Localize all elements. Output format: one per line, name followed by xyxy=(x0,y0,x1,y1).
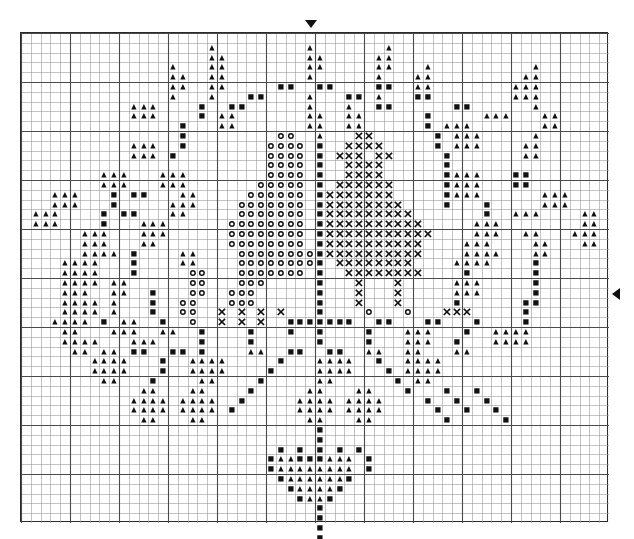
triangle-symbol[interactable] xyxy=(139,337,149,347)
triangle-symbol[interactable] xyxy=(80,249,90,259)
triangle-symbol[interactable] xyxy=(217,82,227,92)
triangle-symbol[interactable] xyxy=(344,121,354,131)
triangle-symbol[interactable] xyxy=(433,356,443,366)
triangle-symbol[interactable] xyxy=(413,347,423,357)
triangle-symbol[interactable] xyxy=(305,43,315,53)
triangle-symbol[interactable] xyxy=(482,229,492,239)
open-circle-symbol[interactable] xyxy=(266,200,276,210)
open-circle-symbol[interactable] xyxy=(295,160,305,170)
triangle-symbol[interactable] xyxy=(452,141,462,151)
cross-symbol[interactable] xyxy=(393,278,403,288)
cross-symbol[interactable] xyxy=(364,190,374,200)
cross-symbol[interactable] xyxy=(413,219,423,229)
triangle-symbol[interactable] xyxy=(511,209,521,219)
cross-symbol[interactable] xyxy=(344,239,354,249)
filled-square-symbol[interactable] xyxy=(374,102,384,112)
triangle-symbol[interactable] xyxy=(521,151,531,161)
cross-symbol[interactable] xyxy=(354,200,364,210)
filled-square-symbol[interactable] xyxy=(315,180,325,190)
open-circle-symbol[interactable] xyxy=(286,209,296,219)
triangle-symbol[interactable] xyxy=(188,190,198,200)
triangle-symbol[interactable] xyxy=(315,405,325,415)
triangle-symbol[interactable] xyxy=(325,474,335,484)
open-circle-symbol[interactable] xyxy=(256,249,266,259)
open-circle-symbol[interactable] xyxy=(188,268,198,278)
cross-symbol[interactable] xyxy=(335,239,345,249)
triangle-symbol[interactable] xyxy=(354,121,364,131)
open-circle-symbol[interactable] xyxy=(276,258,286,268)
open-circle-symbol[interactable] xyxy=(266,190,276,200)
triangle-symbol[interactable] xyxy=(90,229,100,239)
open-circle-symbol[interactable] xyxy=(295,151,305,161)
open-circle-symbol[interactable] xyxy=(188,288,198,298)
filled-square-symbol[interactable] xyxy=(109,190,119,200)
triangle-symbol[interactable] xyxy=(90,356,100,366)
cross-symbol[interactable] xyxy=(364,170,374,180)
filled-square-symbol[interactable] xyxy=(384,317,394,327)
triangle-symbol[interactable] xyxy=(50,190,60,200)
filled-square-symbol[interactable] xyxy=(276,82,286,92)
triangle-symbol[interactable] xyxy=(531,62,541,72)
cross-symbol[interactable] xyxy=(384,219,394,229)
open-circle-symbol[interactable] xyxy=(237,239,247,249)
filled-square-symbol[interactable] xyxy=(129,209,139,219)
open-circle-symbol[interactable] xyxy=(197,288,207,298)
open-circle-symbol[interactable] xyxy=(295,258,305,268)
cross-symbol[interactable] xyxy=(374,190,384,200)
triangle-symbol[interactable] xyxy=(511,92,521,102)
triangle-symbol[interactable] xyxy=(462,347,472,357)
triangle-symbol[interactable] xyxy=(119,317,129,327)
cross-symbol[interactable] xyxy=(384,249,394,259)
filled-square-symbol[interactable] xyxy=(521,298,531,308)
triangle-symbol[interactable] xyxy=(452,131,462,141)
triangle-symbol[interactable] xyxy=(315,386,325,396)
filled-square-symbol[interactable] xyxy=(315,258,325,268)
open-circle-symbol[interactable] xyxy=(286,258,296,268)
triangle-symbol[interactable] xyxy=(344,405,354,415)
triangle-symbol[interactable] xyxy=(560,200,570,210)
filled-square-symbol[interactable] xyxy=(315,445,325,455)
filled-square-symbol[interactable] xyxy=(129,249,139,259)
triangle-symbol[interactable] xyxy=(305,396,315,406)
triangle-symbol[interactable] xyxy=(521,82,531,92)
filled-square-symbol[interactable] xyxy=(364,464,374,474)
open-circle-symbol[interactable] xyxy=(364,307,374,317)
triangle-symbol[interactable] xyxy=(168,72,178,82)
filled-square-symbol[interactable] xyxy=(452,298,462,308)
filled-square-symbol[interactable] xyxy=(325,317,335,327)
triangle-symbol[interactable] xyxy=(315,415,325,425)
triangle-symbol[interactable] xyxy=(148,405,158,415)
triangle-symbol[interactable] xyxy=(60,258,70,268)
triangle-symbol[interactable] xyxy=(188,200,198,210)
open-circle-symbol[interactable] xyxy=(276,190,286,200)
triangle-symbol[interactable] xyxy=(344,111,354,121)
filled-square-symbol[interactable] xyxy=(158,366,168,376)
open-circle-symbol[interactable] xyxy=(246,239,256,249)
triangle-symbol[interactable] xyxy=(354,386,364,396)
triangle-symbol[interactable] xyxy=(70,288,80,298)
triangle-symbol[interactable] xyxy=(462,170,472,180)
open-circle-symbol[interactable] xyxy=(178,298,188,308)
triangle-symbol[interactable] xyxy=(256,347,266,357)
triangle-symbol[interactable] xyxy=(344,396,354,406)
cross-symbol[interactable] xyxy=(442,307,452,317)
open-circle-symbol[interactable] xyxy=(286,190,296,200)
open-circle-symbol[interactable] xyxy=(276,249,286,259)
triangle-symbol[interactable] xyxy=(70,190,80,200)
triangle-symbol[interactable] xyxy=(344,454,354,464)
triangle-symbol[interactable] xyxy=(50,209,60,219)
cross-symbol[interactable] xyxy=(325,239,335,249)
triangle-symbol[interactable] xyxy=(119,288,129,298)
triangle-symbol[interactable] xyxy=(531,249,541,259)
triangle-symbol[interactable] xyxy=(531,82,541,92)
triangle-symbol[interactable] xyxy=(295,464,305,474)
triangle-symbol[interactable] xyxy=(531,229,541,239)
open-circle-symbol[interactable] xyxy=(295,180,305,190)
cross-symbol[interactable] xyxy=(374,151,384,161)
triangle-symbol[interactable] xyxy=(90,249,100,259)
cross-symbol[interactable] xyxy=(364,160,374,170)
filled-square-symbol[interactable] xyxy=(237,396,247,406)
triangle-symbol[interactable] xyxy=(217,366,227,376)
open-circle-symbol[interactable] xyxy=(246,190,256,200)
cross-symbol[interactable] xyxy=(364,200,374,210)
